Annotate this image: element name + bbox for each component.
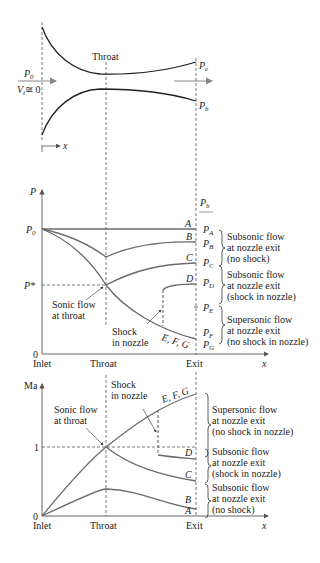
svg-text:(no shock in nozzle): (no shock in nozzle) [212, 426, 293, 438]
svg-text:Sonic flow: Sonic flow [54, 404, 98, 415]
curve-label-b: B [186, 231, 192, 242]
curve-c [106, 263, 196, 285]
svg-text:PA: PA [202, 224, 214, 237]
back-pressure-label: Pb [198, 100, 209, 113]
mach-tick-inlet: Inlet [33, 520, 52, 531]
svg-text:at throat: at throat [54, 415, 87, 426]
svg-text:at nozzle exit: at nozzle exit [212, 415, 266, 426]
svg-text:at nozzle exit: at nozzle exit [227, 280, 281, 291]
pressure-tick-inlet: Inlet [33, 358, 52, 369]
mach-chart: Ma 1 0 A B C D E, F, G Supersonic flow a… [24, 372, 293, 531]
inlet-velocity-label: Vi≅ 0 [17, 84, 41, 97]
pressure-regime-1-text: Subsonic flow at nozzle exit (no shock) [227, 231, 285, 265]
svg-text:(no shock): (no shock) [212, 504, 255, 516]
pressure-regime-2-text: Subsonic flow at nozzle exit (shock in n… [227, 269, 296, 303]
mach-brace-regime-1 [205, 393, 211, 457]
mach-regime-3-text: Subsonic flow at nozzle exit (no shock) [212, 482, 270, 516]
brace-regime-3 [219, 306, 225, 344]
svg-text:PG: PG [202, 339, 214, 352]
svg-text:Subsonic flow: Subsonic flow [227, 231, 285, 242]
curve-label-a: A [184, 218, 192, 229]
svg-text:Supersonic flow: Supersonic flow [212, 404, 278, 415]
svg-text:at nozzle exit: at nozzle exit [227, 242, 281, 253]
curve-label-d: D [185, 273, 194, 284]
p0-tick-label: P0 [25, 224, 36, 237]
exit-pressure-label: Pe [198, 60, 208, 73]
brace-regime-2 [219, 266, 225, 304]
svg-text:Sonic flow: Sonic flow [52, 299, 96, 310]
throat-label: Throat [92, 51, 119, 62]
curve-b [42, 229, 196, 257]
svg-text:Subsonic flow: Subsonic flow [212, 446, 270, 457]
svg-text:Shock: Shock [111, 379, 136, 390]
mach-brace-regime-2 [205, 449, 211, 483]
converging-diverging-nozzle-diagram: x Throat P0 Vi≅ 0 Pe Pb P Pb P0 P* 0 A B… [0, 0, 320, 563]
nozzle-upper-wall [42, 27, 196, 74]
pressure-chart: P Pb P0 P* 0 A B C D E, F, G PA PB PC PD… [23, 186, 308, 369]
pb-header-label: Pb [199, 197, 210, 210]
pressure-y-label: P [29, 186, 36, 197]
mach-regime-1-text: Supersonic flow at nozzle exit (no shock… [212, 404, 293, 438]
mach-tick-exit: Exit [186, 520, 203, 531]
svg-text:Shock: Shock [112, 326, 137, 337]
svg-text:PE: PE [202, 302, 214, 315]
pstar-tick-label: P* [23, 280, 35, 291]
svg-text:in nozzle: in nozzle [111, 390, 148, 401]
svg-text:PD: PD [202, 277, 214, 290]
svg-text:Subsonic flow: Subsonic flow [227, 269, 285, 280]
pressure-x-label: x [261, 358, 267, 369]
svg-text:Subsonic flow: Subsonic flow [212, 482, 270, 493]
svg-text:(no shock): (no shock) [227, 253, 270, 265]
pressure-tick-exit: Exit [186, 358, 203, 369]
curve-label-c: C [186, 252, 193, 263]
mach-regime-2-text: Subsonic flow at nozzle exit (shock in n… [212, 446, 281, 480]
mach-brace-regime-3 [205, 484, 211, 518]
svg-text:at throat: at throat [52, 310, 85, 321]
curve-efg [42, 229, 196, 339]
mach-y-label: Ma [24, 380, 38, 391]
nozzle-sketch: x Throat P0 Vi≅ 0 Pe Pb [17, 22, 212, 355]
pressure-regime-3-text: Supersonic flow at nozzle exit (no shock… [227, 314, 308, 348]
svg-text:PC: PC [202, 257, 214, 270]
svg-text:at nozzle exit: at nozzle exit [227, 325, 281, 336]
mach-one-label: 1 [34, 442, 39, 453]
svg-text:in nozzle: in nozzle [112, 337, 149, 348]
svg-text:(no shock in nozzle): (no shock in nozzle) [227, 336, 308, 348]
mach-curve-label-d: D [184, 447, 193, 458]
mach-curve-label-a: A [184, 505, 192, 516]
mach-curve-label-c: C [185, 469, 192, 480]
svg-text:at nozzle exit: at nozzle exit [212, 457, 266, 468]
svg-text:Supersonic flow: Supersonic flow [227, 314, 293, 325]
exit-pressure-labels: PA PB PC PD PE PF PG [194, 224, 214, 352]
curve-d [163, 284, 196, 290]
mach-shock-note: Shock in nozzle [111, 379, 156, 432]
svg-text:(shock in nozzle): (shock in nozzle) [227, 291, 296, 303]
curve-label-efg: E, F, G [159, 331, 190, 350]
nozzle-x-label: x [62, 140, 68, 151]
mach-curve-label-b: B [185, 494, 191, 505]
nozzle-lower-wall [42, 89, 196, 135]
mach-sonic-note: Sonic flow at throat [54, 404, 103, 445]
inlet-pressure-label: P0 [23, 68, 34, 81]
pressure-tick-throat: Throat [90, 358, 117, 369]
svg-text:at nozzle exit: at nozzle exit [212, 493, 266, 504]
pressure-shock-note: Shock in nozzle [112, 310, 161, 348]
mach-curve-b [42, 489, 196, 516]
mach-tick-throat: Throat [90, 520, 117, 531]
mach-x-label: x [261, 520, 267, 531]
svg-text:(shock in nozzle): (shock in nozzle) [212, 468, 281, 480]
brace-regime-1 [219, 230, 225, 266]
pressure-sonic-note: Sonic flow at throat [52, 287, 103, 321]
mach-curve-c [106, 447, 196, 481]
svg-text:PB: PB [202, 238, 214, 251]
